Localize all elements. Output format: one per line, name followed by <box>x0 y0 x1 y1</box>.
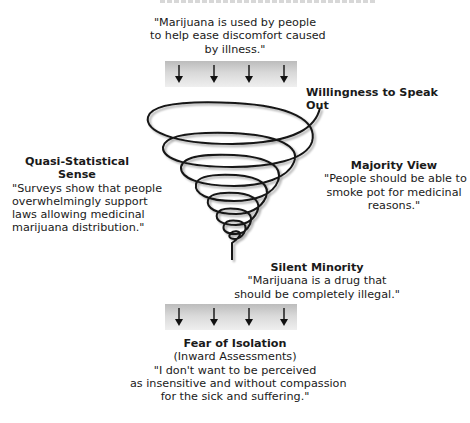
silent-minority-title: Silent Minority <box>232 261 402 274</box>
bottom-pressure-bar <box>165 304 297 330</box>
silent-minority-line: should be completely illegal." <box>232 288 402 301</box>
willingness-label: Willingness to Speak Out <box>306 86 456 113</box>
quasi-statistical-line: marijuana distribution." <box>12 221 142 234</box>
quasi-statistical-title: Quasi-Statistical Sense <box>12 155 142 182</box>
quasi-statistical-line: overwhelmingly support <box>12 195 142 208</box>
majority-view-title: Majority View <box>324 159 464 172</box>
fear-of-isolation-line: for the sick and suffering." <box>130 390 340 403</box>
willingness-to-speak-out: Willingness to Speak Out <box>306 86 456 113</box>
down-arrow-icon <box>210 308 218 326</box>
down-arrow-icon <box>175 308 183 326</box>
majority-view-line: "People should be able to <box>324 172 464 185</box>
silent-minority-line: "Marijuana is a drug that <box>232 274 402 287</box>
fear-of-isolation-line: as insensitive and without compassion <box>130 377 340 390</box>
fear-of-isolation-title: Fear of Isolation <box>130 337 340 350</box>
majority-view: Majority View "People should be able to … <box>324 159 464 212</box>
quasi-statistical-sense: Quasi-Statistical Sense "Surveys show th… <box>12 155 142 235</box>
quasi-statistical-line: laws allowing medicinal <box>12 208 142 221</box>
down-arrow-icon <box>245 308 253 326</box>
silent-minority: Silent Minority "Marijuana is a drug tha… <box>232 261 402 301</box>
majority-view-line: reasons." <box>324 199 464 212</box>
quasi-statistical-line: "Surveys show that people <box>12 182 142 195</box>
spiral-coil <box>148 102 320 260</box>
fear-of-isolation: Fear of Isolation (Inward Assessments) "… <box>130 337 340 403</box>
majority-view-line: smoke pot for medicinal <box>324 186 464 199</box>
fear-of-isolation-subtitle: (Inward Assessments) <box>130 350 340 363</box>
down-arrow-icon <box>280 308 288 326</box>
fear-of-isolation-line: "I don't want to be perceived <box>130 364 340 377</box>
